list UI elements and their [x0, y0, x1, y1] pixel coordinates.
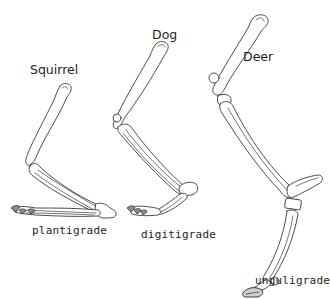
dog-tibia — [118, 124, 187, 195]
limb-posture-diagram: Squirrel Dog Deer plantigrade digitigrad… — [0, 0, 330, 299]
deer-cannon-bone — [263, 210, 298, 283]
label-posture-unguligrade: unguligrade — [255, 274, 330, 288]
deer-tarsals — [284, 198, 301, 210]
label-species-squirrel: Squirrel — [30, 63, 78, 77]
squirrel-femur — [26, 83, 71, 165]
skeleton-drawings — [0, 0, 330, 299]
dog-leg-skeleton — [113, 41, 198, 215]
deer-tibia — [220, 102, 294, 198]
label-species-dog: Dog — [152, 28, 177, 42]
label-posture-plantigrade: plantigrade — [32, 224, 107, 238]
dog-femur — [113, 41, 168, 128]
label-species-deer: Deer — [243, 50, 273, 64]
squirrel-leg-skeleton — [11, 83, 116, 218]
label-posture-digitigrade: digitigrade — [141, 228, 216, 242]
deer-hoof — [243, 288, 263, 297]
